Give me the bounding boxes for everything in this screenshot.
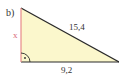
base-label: 9,2 <box>61 65 72 75</box>
right-angle-dot <box>24 57 26 59</box>
unknown-side-label: x <box>13 30 18 40</box>
part-label: b) <box>6 7 14 19</box>
right-triangle-diagram: b) x 15,4 9,2 <box>0 0 119 76</box>
hypotenuse-label: 15,4 <box>69 22 85 32</box>
